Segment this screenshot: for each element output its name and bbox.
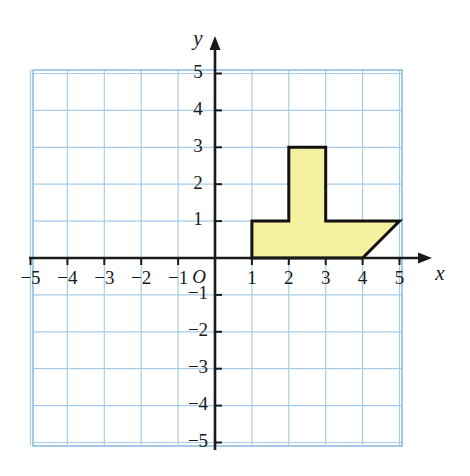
y-tick-label: 4 [193, 98, 203, 119]
y-tick-label: 5 [193, 61, 203, 82]
x-tick-label: 5 [395, 267, 405, 288]
x-tick-label: 4 [358, 267, 368, 288]
origin-label: O [192, 266, 206, 287]
y-axis-label: y [191, 26, 203, 50]
y-tick-label: −4 [188, 393, 209, 414]
x-tick-label: −3 [94, 267, 114, 288]
y-tick-label: 1 [193, 208, 203, 229]
x-tick-label: −5 [20, 267, 40, 288]
x-tick-label: 2 [284, 267, 294, 288]
x-axis-label: x [434, 261, 445, 285]
y-tick-label: 3 [193, 135, 203, 156]
y-tick-label: −3 [188, 356, 208, 377]
coordinate-plane-figure: −5−4−3−2−11234554321−1−2−3−4−5 Oxy [0, 0, 470, 476]
x-tick-label: −4 [57, 267, 78, 288]
coordinate-plane-svg: −5−4−3−2−11234554321−1−2−3−4−5 Oxy [0, 0, 470, 476]
x-tick-label: 1 [247, 267, 257, 288]
x-tick-label: −1 [168, 267, 188, 288]
y-tick-label: −2 [188, 319, 208, 340]
x-tick-label: −2 [131, 267, 151, 288]
y-tick-label: 2 [193, 172, 203, 193]
y-tick-label: −5 [188, 430, 208, 451]
x-tick-label: 3 [321, 267, 331, 288]
